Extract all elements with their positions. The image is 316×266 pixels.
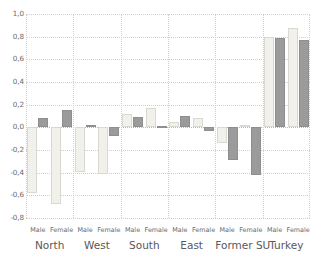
bar-dark (275, 38, 285, 128)
gridline-vertical (309, 14, 310, 218)
bar-light (146, 108, 156, 127)
bar-light (264, 37, 274, 128)
y-axis-tick-label: 0,6 (13, 56, 24, 63)
bar-light (217, 127, 227, 143)
x-axis: MaleFemaleNorthMaleFemaleWestMaleFemaleS… (26, 218, 310, 266)
bar-light (27, 127, 37, 193)
bar-light (98, 127, 108, 173)
bar-light (193, 118, 203, 127)
y-axis-tick-label: 0,8 (13, 33, 24, 40)
x-axis-sublabel-female: Female (239, 227, 263, 233)
x-axis-sublabels: MaleFemale (168, 227, 215, 233)
bar-light (122, 114, 132, 128)
x-axis-group-label: Former SU (215, 240, 262, 251)
gridline-vertical (168, 14, 169, 218)
x-axis-sublabel-female: Female (192, 227, 216, 233)
y-axis-tick-label: -0,2 (10, 146, 24, 153)
bar-light (288, 28, 298, 128)
x-axis-sublabel-male: Male (215, 227, 239, 233)
y-axis-tick-label: 1,0 (13, 10, 24, 17)
x-axis-sublabel-male: Male (168, 227, 192, 233)
bar-light (51, 127, 61, 204)
x-axis-sublabel-male: Male (121, 227, 145, 233)
bar-dark (204, 127, 214, 130)
y-axis-tick-label: -0,8 (10, 214, 24, 221)
bar-dark (157, 126, 167, 128)
x-axis-sublabels: MaleFemale (26, 227, 73, 233)
y-axis-tick-label: 0,2 (13, 101, 24, 108)
bar-dark (251, 127, 261, 175)
y-axis-tick-label: 0,4 (13, 78, 24, 85)
x-axis-sublabels: MaleFemale (73, 227, 120, 233)
x-axis-sublabel-male: Male (26, 227, 50, 233)
bar-dark (38, 118, 48, 127)
y-axis-tick-label: -0,6 (10, 192, 24, 199)
bar-light (240, 125, 250, 127)
bar-dark (86, 125, 96, 127)
y-axis-tick-label: 0,0 (13, 124, 24, 131)
bar-dark (109, 127, 119, 136)
bar-dark (228, 127, 238, 160)
gridline-vertical (73, 14, 74, 218)
x-axis-group-label: West (73, 240, 120, 251)
bar-light (75, 127, 85, 171)
x-axis-group-label: East (168, 240, 215, 251)
x-axis-sublabels: MaleFemale (121, 227, 168, 233)
bar-light (169, 122, 179, 128)
x-axis-sublabel-female: Female (50, 227, 74, 233)
x-axis-group-label: North (26, 240, 73, 251)
x-axis-sublabel-female: Female (144, 227, 168, 233)
y-axis-tick-label: -0,4 (10, 169, 24, 176)
x-axis-sublabel-male: Male (73, 227, 97, 233)
x-axis-group-label: Turkey (263, 240, 310, 251)
x-axis-sublabel-female: Female (97, 227, 121, 233)
bar-dark (133, 117, 143, 127)
x-axis-sublabel-female: Female (286, 227, 310, 233)
bar-dark (180, 116, 190, 127)
plot-area (26, 14, 310, 218)
gridline-vertical (215, 14, 216, 218)
bar-dark (299, 40, 309, 127)
bar-dark (62, 110, 72, 127)
y-axis: 1,00,80,60,40,20,0-0,2-0,4-0,6-0,8 (0, 0, 26, 266)
x-axis-sublabel-male: Male (263, 227, 287, 233)
x-axis-group-label: South (121, 240, 168, 251)
x-axis-sublabels: MaleFemale (215, 227, 262, 233)
x-axis-sublabels: MaleFemale (263, 227, 310, 233)
bar-chart: 1,00,80,60,40,20,0-0,2-0,4-0,6-0,8 MaleF… (0, 0, 316, 266)
